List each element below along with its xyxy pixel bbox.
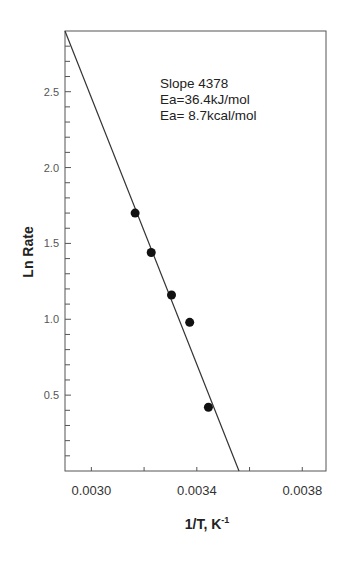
x-tick-label: 0.0030 [71, 483, 111, 498]
x-tick-label: 0.0034 [177, 483, 217, 498]
data-points [131, 209, 213, 412]
data-point [147, 248, 156, 257]
y-tick-label: 2.0 [44, 162, 59, 174]
annotation-line: Ea=36.4kJ/mol [160, 92, 250, 107]
x-axis-tick-labels: 0.00300.00340.0038 [71, 483, 322, 498]
annotation-line: Ea= 8.7kcal/mol [160, 108, 256, 123]
y-axis-ticks [65, 46, 71, 456]
y-axis-tick-labels: 0.51.01.52.02.5 [44, 86, 59, 401]
x-axis-title: 1/T, K-1 [185, 515, 230, 532]
y-tick-label: 0.5 [44, 389, 59, 401]
annotation-box: Slope 4378Ea=36.4kJ/molEa= 8.7kcal/mol [160, 76, 256, 123]
y-tick-label: 1.5 [44, 237, 59, 249]
data-point [204, 403, 213, 412]
data-point [131, 209, 140, 218]
y-tick-label: 2.5 [44, 86, 59, 98]
arrhenius-chart: 0.51.01.52.02.5 0.00300.00340.0038 Slope… [0, 0, 347, 564]
data-point [185, 318, 194, 327]
y-axis-title: Ln Rate [20, 226, 36, 278]
annotation-line: Slope 4378 [160, 76, 228, 91]
x-axis-ticks [91, 467, 302, 471]
data-point [167, 291, 176, 300]
y-tick-label: 1.0 [44, 313, 59, 325]
x-tick-label: 0.0038 [282, 483, 322, 498]
